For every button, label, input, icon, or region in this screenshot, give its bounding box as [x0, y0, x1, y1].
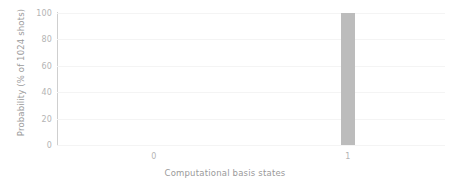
gridline [57, 39, 445, 40]
x-axis-tick-label: 0 [151, 152, 156, 161]
y-axis-tick-label: 100 [28, 9, 52, 18]
y-axis-tick-label: 0 [28, 141, 52, 150]
x-axis-tick-label: 1 [345, 152, 350, 161]
y-axis-tick-label: 60 [28, 61, 52, 70]
gridline [57, 92, 445, 93]
x-axis-label: Computational basis states [0, 168, 450, 178]
gridline [57, 13, 445, 14]
y-axis-tick-label: 80 [28, 35, 52, 44]
plot-area [57, 13, 445, 145]
y-axis-label: Probability (% of 1024 shots) [14, 0, 28, 145]
gridline [57, 119, 445, 120]
y-axis-tick-labels: 020406080100 [28, 0, 52, 186]
gridline [57, 66, 445, 67]
y-axis-tick-label: 40 [28, 88, 52, 97]
gridline [57, 145, 445, 146]
y-axis-tick-label: 20 [28, 114, 52, 123]
bar [341, 13, 355, 145]
bar-chart-figure: Probability (% of 1024 shots) 0204060801… [0, 0, 450, 186]
